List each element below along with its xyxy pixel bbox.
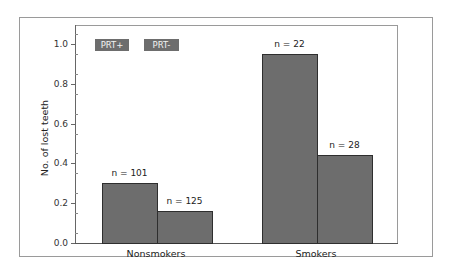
y-minor-tick (75, 213, 78, 214)
sample-size-label: n = 28 (315, 140, 375, 150)
sample-size-label: n = 22 (260, 39, 320, 49)
bar-smokers-prt-plus (262, 54, 318, 244)
y-tick (71, 203, 75, 204)
y-minor-tick (75, 54, 78, 55)
y-minor-tick (75, 134, 78, 135)
sample-size-label: n = 101 (100, 168, 160, 178)
y-minor-tick (75, 34, 78, 35)
sample-size-label: n = 125 (155, 196, 215, 206)
y-tick (71, 44, 75, 45)
bar-nonsmokers-prt-plus (102, 183, 158, 244)
bar-nonsmokers-prt-minus (157, 211, 213, 244)
y-minor-tick (75, 114, 78, 115)
y-axis-label: No. of lost teeth (39, 100, 50, 176)
y-tick (71, 163, 75, 164)
category-label-smokers: Smokers (266, 248, 366, 259)
y-minor-tick (75, 153, 78, 154)
bar-smokers-prt-minus (317, 155, 373, 244)
y-tick-label: 0.8 (40, 79, 68, 89)
y-tick-label: 1.0 (40, 39, 68, 49)
y-tick-label: 0.2 (40, 198, 68, 208)
y-minor-tick (75, 173, 78, 174)
y-tick (71, 124, 75, 125)
legend-prt-minus: PRT- (144, 39, 179, 51)
y-minor-tick (75, 193, 78, 194)
y-minor-tick (75, 233, 78, 234)
y-minor-tick (75, 74, 78, 75)
y-minor-tick (75, 94, 78, 95)
legend-prt-plus: PRT+ (95, 39, 129, 51)
category-label-nonsmokers: Nonsmokers (106, 248, 206, 259)
y-tick (71, 84, 75, 85)
y-tick-label: 0.0 (40, 238, 68, 248)
y-tick (71, 243, 75, 244)
